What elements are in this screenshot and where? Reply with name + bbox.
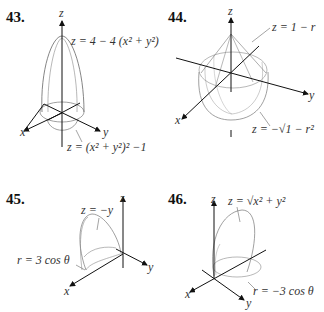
- fig43-lower-surface-label: z = (x² + y²)² −1: [67, 140, 146, 155]
- problem-46-number: 46.: [168, 191, 187, 208]
- fig46-cylinder-label: r = −3 cos θ: [253, 284, 314, 299]
- fig45-y-axis-label: y: [148, 260, 153, 275]
- fig46-y-axis-label: y: [246, 296, 251, 311]
- fig45-plane-label: z = −y: [81, 203, 113, 218]
- fig44-hemisphere-label: z = −√1 − r²: [252, 122, 314, 137]
- fig46-x-axis-label: x: [185, 287, 190, 302]
- fig43-z-axis-label: z: [59, 6, 64, 21]
- fig43-x-axis-label: x: [20, 125, 25, 140]
- fig45-z-axis-label: z: [120, 191, 125, 206]
- fig43-upper-surface-label: z = 4 − 4 (x² + y²): [71, 34, 159, 49]
- fig44-z-axis-label: z: [228, 4, 233, 19]
- fig46-z-axis-label: z: [211, 192, 216, 207]
- figure-44-drawing: [176, 18, 308, 137]
- fig46-cone-label: z = √x² + y²: [228, 194, 285, 209]
- problem-44-number: 44.: [168, 9, 187, 26]
- fig44-x-axis-label: x: [175, 113, 180, 128]
- fig45-cylinder-label: r = 3 cos θ: [17, 253, 70, 268]
- fig44-y-axis-label: y: [309, 88, 314, 103]
- fig44-cone-label: z = 1 − r: [272, 20, 316, 35]
- fig45-x-axis-label: x: [64, 284, 69, 299]
- problem-45-number: 45.: [6, 191, 25, 208]
- problem-43-number: 43.: [6, 9, 25, 26]
- fig43-y-axis-label: y: [103, 125, 108, 140]
